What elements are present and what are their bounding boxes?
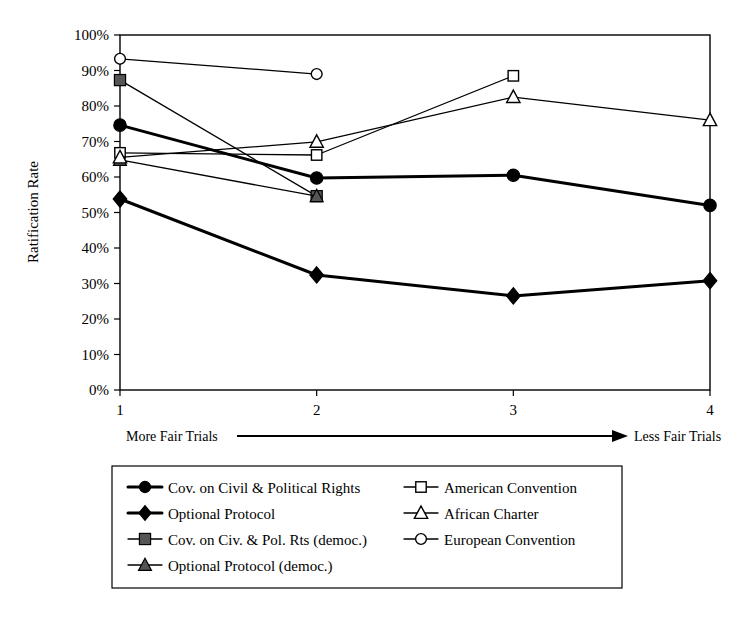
- x-tick-label: 3: [510, 402, 518, 418]
- marker-filled-diamond: [113, 191, 127, 207]
- y-tick-label: 70%: [82, 134, 110, 150]
- y-tick-label: 90%: [82, 63, 110, 79]
- chart-svg: 0%10%20%30%40%50%60%70%80%90%100% 1234 R…: [0, 0, 742, 628]
- y-tick-label: 0%: [89, 382, 109, 398]
- series-1: [114, 119, 716, 212]
- legend-item-label: Optional Protocol (democ.): [168, 558, 333, 575]
- marker-filled-diamond-legend: [139, 506, 151, 521]
- marker-open-circle: [311, 69, 322, 80]
- y-axis: 0%10%20%30%40%50%60%70%80%90%100%: [74, 27, 120, 398]
- marker-shaded-triangle-legend: [139, 558, 152, 570]
- legend-item-1[interactable]: Cov. on Civil & Political Rights: [128, 480, 361, 496]
- y-tick-label: 40%: [82, 240, 110, 256]
- y-axis-title: Ratification Rate: [25, 161, 41, 263]
- x-tick-label: 2: [313, 402, 321, 418]
- series-line: [120, 125, 710, 205]
- plot-frame: [120, 35, 710, 390]
- legend-item-6[interactable]: African Charter: [404, 506, 539, 522]
- marker-filled-diamond: [703, 272, 717, 288]
- marker-open-square-legend: [416, 482, 426, 492]
- legend-item-4[interactable]: Optional Protocol (democ.): [128, 558, 333, 575]
- legend-item-label: Cov. on Civil & Political Rights: [168, 480, 361, 496]
- marker-filled-circle: [114, 119, 126, 131]
- legend-item-label: European Convention: [444, 532, 576, 548]
- y-tick-label: 60%: [82, 169, 110, 185]
- series-7: [115, 53, 322, 79]
- legend: Cov. on Civil & Political RightsOptional…: [112, 466, 622, 588]
- y-tick-label: 20%: [82, 311, 110, 327]
- legend-item-label: Optional Protocol: [168, 506, 275, 522]
- marker-filled-circle: [310, 172, 322, 184]
- y-tick-label: 100%: [74, 27, 109, 43]
- x-tick-label: 4: [706, 402, 714, 418]
- marker-open-square: [311, 150, 321, 160]
- marker-filled-circle: [507, 169, 519, 181]
- y-tick-label: 30%: [82, 276, 110, 292]
- legend-item-5[interactable]: American Convention: [404, 480, 577, 496]
- legend-item-2[interactable]: Optional Protocol: [128, 506, 275, 522]
- marker-open-circle-legend: [416, 534, 427, 545]
- series-4: [114, 153, 324, 201]
- series-6: [113, 90, 716, 163]
- marker-open-triangle-legend: [414, 506, 427, 518]
- series-2: [113, 191, 717, 304]
- series-line: [120, 59, 317, 74]
- marker-filled-circle-legend: [139, 481, 150, 492]
- marker-open-circle: [115, 53, 126, 64]
- x-tick-label: 1: [116, 402, 124, 418]
- series-line: [120, 199, 710, 296]
- legend-item-label: Cov. on Civ. & Pol. Rts (democ.): [168, 532, 367, 549]
- legend-item-label: American Convention: [444, 480, 577, 496]
- series-3: [114, 75, 322, 202]
- marker-open-triangle: [507, 90, 520, 102]
- direction-arrow-head: [612, 430, 628, 442]
- legend-item-label: African Charter: [444, 506, 539, 522]
- marker-shaded-square: [114, 75, 125, 86]
- legend-item-3[interactable]: Cov. on Civ. & Pol. Rts (democ.): [128, 532, 367, 549]
- series-line: [120, 80, 317, 196]
- chart-figure: 0%10%20%30%40%50%60%70%80%90%100% 1234 R…: [0, 0, 742, 628]
- marker-filled-circle: [704, 199, 716, 211]
- marker-filled-diamond: [507, 288, 521, 304]
- y-tick-label: 80%: [82, 98, 110, 114]
- legend-item-7[interactable]: European Convention: [404, 532, 576, 548]
- legend-entries: Cov. on Civil & Political RightsOptional…: [128, 480, 577, 575]
- marker-shaded-square-legend: [139, 533, 150, 544]
- annotation-left-label: More Fair Trials: [126, 429, 218, 444]
- x-axis-direction-annotation: More Fair Trials Less Fair Trials: [126, 429, 721, 444]
- marker-open-square: [508, 71, 518, 81]
- data-series-group: [113, 53, 717, 304]
- annotation-right-label: Less Fair Trials: [634, 429, 721, 444]
- y-tick-label: 10%: [82, 347, 110, 363]
- marker-filled-diamond: [310, 267, 324, 283]
- y-tick-label: 50%: [82, 205, 110, 221]
- x-axis: 1234: [116, 390, 714, 418]
